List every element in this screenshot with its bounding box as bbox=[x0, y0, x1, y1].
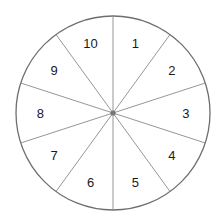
section-label-3: 3 bbox=[182, 106, 189, 121]
section-label-2: 2 bbox=[168, 63, 175, 78]
section-label-1: 1 bbox=[132, 36, 139, 51]
section-label-9: 9 bbox=[51, 63, 58, 78]
section-label-10: 10 bbox=[83, 36, 97, 51]
center-pivot bbox=[110, 110, 115, 115]
spinner-wheel: 12345678910 bbox=[0, 0, 221, 219]
section-label-5: 5 bbox=[132, 175, 139, 190]
section-label-4: 4 bbox=[168, 148, 175, 163]
section-label-6: 6 bbox=[87, 175, 94, 190]
section-label-7: 7 bbox=[51, 148, 58, 163]
section-label-8: 8 bbox=[37, 106, 44, 121]
